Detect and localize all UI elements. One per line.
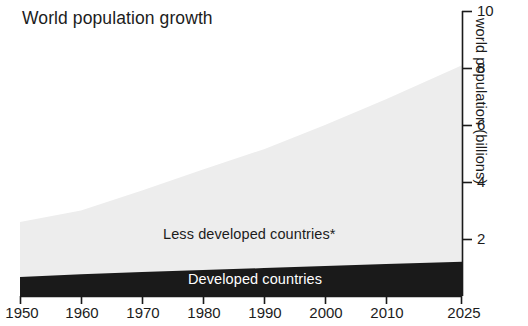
x-axis-tick-label-2025: 2025 [447, 305, 480, 320]
x-axis-tick-label-1970: 1970 [126, 305, 159, 320]
area-band-less-developed [20, 65, 462, 296]
chart-figure: World population growth [0, 0, 528, 326]
x-axis-tick-label-2010: 2010 [370, 305, 403, 320]
x-axis-tick-label-1960: 1960 [65, 305, 98, 320]
series-label-developed: Developed countries [188, 271, 322, 287]
x-axis-tick-label-2000: 2000 [309, 305, 342, 320]
y-axis-title: world population (billions) [473, 18, 489, 308]
x-axis-tick-label-1990: 1990 [248, 305, 281, 320]
series-label-less-developed: Less developed countries* [163, 226, 336, 242]
x-axis-tick-label-1980: 1980 [187, 305, 220, 320]
y-axis-ticks [462, 12, 472, 240]
y-axis-tick-label-10: 10 [477, 3, 494, 18]
x-axis-tick-label-1950: 1950 [5, 305, 38, 320]
